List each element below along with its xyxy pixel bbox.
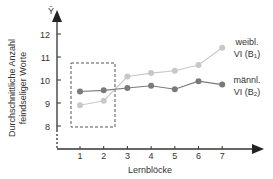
- line-chart: 89101112 1234567 Ȳ Lernblöcke Durchschni…: [0, 0, 273, 179]
- legend-maennl: männl. VI (B2): [233, 75, 260, 97]
- y-tick-label: 8: [45, 122, 50, 132]
- data-point: [196, 62, 202, 68]
- legend-maennl-line2: VI (B2): [234, 87, 260, 97]
- series-group: [77, 45, 225, 109]
- data-point: [77, 89, 83, 95]
- axes: [52, 10, 264, 154]
- data-point: [101, 87, 107, 93]
- data-point: [148, 70, 154, 76]
- y-axis-label-line2: feindseliger Worte: [18, 52, 28, 124]
- y-ticks: 89101112: [40, 30, 61, 132]
- data-point: [77, 102, 83, 108]
- y-tick-label: 9: [45, 99, 50, 109]
- data-point: [172, 86, 178, 92]
- data-point: [219, 82, 225, 88]
- data-point: [172, 68, 178, 74]
- x-tick-label: 3: [125, 151, 130, 161]
- data-point: [124, 74, 130, 80]
- series-weibl: [77, 45, 225, 109]
- x-tick-label: 1: [77, 151, 82, 161]
- series-line: [80, 48, 222, 106]
- data-point: [124, 85, 130, 91]
- data-point: [219, 45, 225, 51]
- x-axis-label: Lernblöcke: [128, 165, 172, 175]
- x-tick-label: 4: [149, 151, 154, 161]
- legend-weibl: weibl. VI (B1): [234, 37, 260, 59]
- series-maennl: [77, 78, 225, 94]
- y-tick-label: 12: [40, 30, 50, 40]
- legend-maennl-line1: männl.: [233, 75, 260, 85]
- y-tick-label: 10: [40, 76, 50, 86]
- x-tick-label: 6: [196, 151, 201, 161]
- data-point: [101, 98, 107, 104]
- x-tick-label: 7: [220, 151, 225, 161]
- y-tick-label: 11: [41, 53, 50, 63]
- x-ticks: 1234567: [77, 146, 224, 161]
- data-point: [148, 83, 154, 89]
- highlight-box: [71, 63, 115, 127]
- legend-weibl-line1: weibl.: [234, 37, 258, 47]
- legend-weibl-line2: VI (B1): [234, 49, 260, 59]
- x-axis-arrow-icon: [252, 144, 264, 154]
- y-axis-label-line1: Durchschnittliche Anzahl: [7, 39, 17, 137]
- y-axis-symbol: Ȳ: [48, 6, 54, 16]
- x-tick-label: 5: [172, 151, 177, 161]
- data-point: [196, 78, 202, 84]
- x-tick-label: 2: [101, 151, 106, 161]
